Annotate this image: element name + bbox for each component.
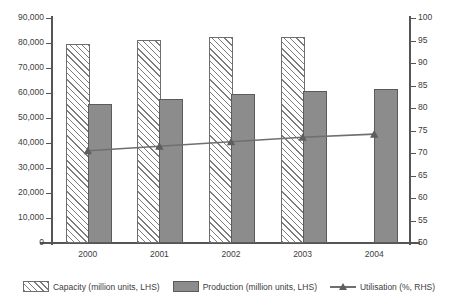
left-axis-tick-label: 60,000 [18, 88, 44, 97]
legend-label-utilisation: Utilisation (%, RHS) [360, 282, 435, 292]
left-axis-tick-label: 70,000 [18, 63, 44, 72]
bar-production-2004 [374, 89, 398, 244]
legend-item-utilisation[interactable]: Utilisation (%, RHS) [330, 282, 435, 292]
right-axis-tick-label: 95 [418, 36, 427, 45]
left-axis-tick [46, 168, 51, 169]
right-axis-tick [411, 41, 416, 42]
right-axis-tick-label: 70 [418, 148, 427, 157]
right-axis-tick-label: 85 [418, 81, 427, 90]
legend-label-production: Production (million units, LHS) [203, 282, 317, 292]
hatched-bar-swatch-icon [23, 281, 49, 292]
legend-item-capacity[interactable]: Capacity (million units, LHS) [23, 281, 160, 292]
x-axis-label-2000: 2000 [58, 250, 118, 259]
solid-bar-swatch-icon [173, 281, 199, 292]
right-axis-tick-label: 80 [418, 103, 427, 112]
plot-area [52, 18, 410, 243]
left-axis-tick-label: 0 [39, 238, 44, 247]
bar-capacity-2000 [66, 44, 90, 244]
left-axis-tick-label: 10,000 [18, 213, 44, 222]
right-axis-tick-label: 60 [418, 193, 427, 202]
left-axis-tick [46, 243, 51, 244]
left-axis-tick [46, 118, 51, 119]
bar-capacity-2002 [209, 37, 233, 243]
left-axis-tick-label: 40,000 [18, 138, 44, 147]
bar-production-2000 [88, 104, 112, 244]
right-axis-tick-label: 90 [418, 58, 427, 67]
chart-legend: Capacity (million units, LHS) Production… [0, 281, 458, 292]
right-axis-tick-label: 50 [418, 238, 427, 247]
right-axis-tick-label: 55 [418, 216, 427, 225]
bar-capacity-2003 [281, 37, 305, 244]
bar-production-2001 [159, 99, 183, 244]
left-axis-tick [46, 143, 51, 144]
right-axis-tick-label: 65 [418, 171, 427, 180]
left-axis-tick [46, 193, 51, 194]
right-axis-tick [411, 243, 416, 244]
right-axis-tick [411, 18, 416, 19]
right-axis-tick-label: 100 [418, 13, 432, 22]
right-axis-tick [411, 86, 416, 87]
right-axis-tick [411, 63, 416, 64]
left-axis-tick-label: 80,000 [18, 38, 44, 47]
right-axis-tick [411, 131, 416, 132]
left-axis-tick [46, 93, 51, 94]
right-axis-tick [411, 221, 416, 222]
bar-capacity-2001 [137, 40, 161, 243]
line-triangle-marker-swatch-icon [330, 282, 356, 291]
x-axis-label-2002: 2002 [201, 250, 261, 259]
right-axis-tick [411, 153, 416, 154]
left-axis-tick-label: 90,000 [18, 13, 44, 22]
left-axis-tick [46, 18, 51, 19]
legend-item-production[interactable]: Production (million units, LHS) [173, 281, 317, 292]
left-axis-tick-label: 20,000 [18, 188, 44, 197]
left-axis-tick [46, 43, 51, 44]
right-axis-tick-label: 75 [418, 126, 427, 135]
x-axis-label-2003: 2003 [273, 250, 333, 259]
right-axis-tick [411, 198, 416, 199]
left-axis-tick [46, 218, 51, 219]
bar-production-2003 [303, 91, 327, 243]
left-axis-tick-label: 50,000 [18, 113, 44, 122]
x-axis-label-2004: 2004 [344, 250, 404, 259]
left-axis-tick [46, 68, 51, 69]
legend-label-capacity: Capacity (million units, LHS) [53, 282, 160, 292]
x-axis-label-2001: 2001 [129, 250, 189, 259]
left-axis-tick-label: 30,000 [18, 163, 44, 172]
bar-production-2002 [231, 94, 255, 244]
right-axis-tick [411, 108, 416, 109]
right-axis-tick [411, 176, 416, 177]
chart-container: 010,00020,00030,00040,00050,00060,00070,… [0, 0, 458, 308]
